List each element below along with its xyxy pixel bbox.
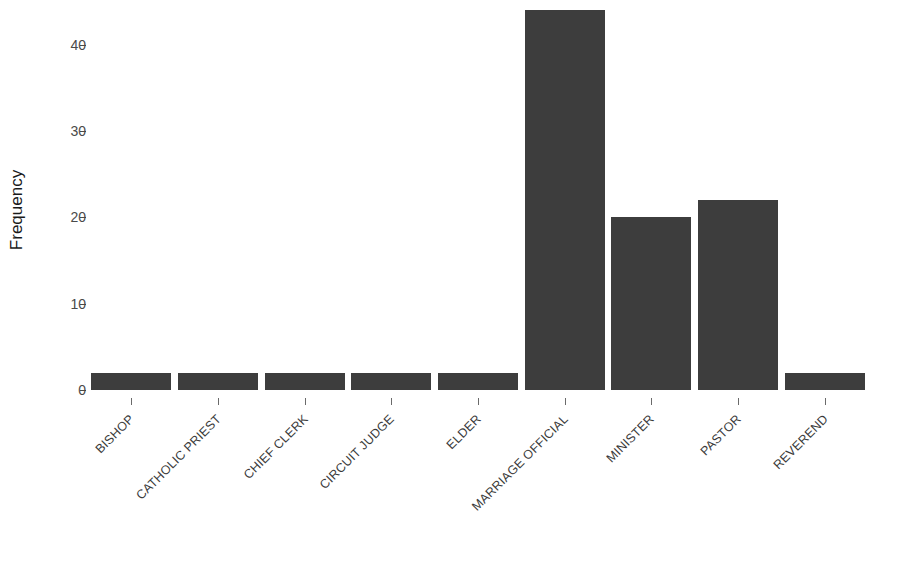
bar[interactable] [265, 373, 345, 390]
x-axis-tick-mark [131, 398, 132, 405]
x-axis-tick-mark [305, 398, 306, 405]
y-axis-tick-label: 30 [34, 123, 86, 139]
y-axis-tick-label: 10 [34, 296, 86, 312]
x-axis-tick-mark [478, 398, 479, 405]
x-axis-tick-label-text: ELDER [444, 412, 484, 452]
x-axis-tick-label-text: CHIEF CLERK [241, 412, 311, 482]
x-axis-tick-mark [651, 398, 652, 405]
y-axis-title: Frequency [0, 0, 34, 420]
clipped-title-text [0, 0, 899, 5]
x-axis-tick-label: BISHOP [127, 412, 137, 422]
x-axis-tick-label: PASTOR [734, 412, 744, 422]
bar[interactable] [611, 217, 691, 390]
x-axis-tick-mark [565, 398, 566, 405]
x-axis-tick-label-text: CIRCUIT JUDGE [317, 412, 397, 492]
x-axis-tick-label-text: MARRIAGE OFFICIAL [469, 412, 571, 514]
y-axis-tick-mark [80, 304, 86, 305]
y-axis-tick-mark [80, 131, 86, 132]
x-axis-tick-label-text: MINISTER [604, 412, 657, 465]
bar[interactable] [698, 200, 778, 390]
x-axis-tick-label-text: REVEREND [770, 412, 830, 472]
y-axis-tick-mark [80, 217, 86, 218]
bar[interactable] [178, 373, 258, 390]
y-axis-tick-mark [80, 45, 86, 46]
y-axis-tick-label: 20 [34, 209, 86, 225]
x-axis-tick-mark [738, 398, 739, 405]
plot-area [88, 10, 868, 390]
bar[interactable] [351, 373, 431, 390]
x-axis-tick-label: CATHOLIC PRIEST [214, 412, 224, 422]
bar[interactable] [525, 10, 605, 390]
y-axis-tick-label: 40 [34, 37, 86, 53]
x-axis-tick-label: MARRIAGE OFFICIAL [561, 412, 571, 422]
bar[interactable] [785, 373, 865, 390]
x-axis-tick-label: CHIEF CLERK [301, 412, 311, 422]
x-axis-tick-label: REVEREND [821, 412, 831, 422]
x-axis-tick-label-text: CATHOLIC PRIEST [133, 412, 223, 502]
x-axis-tick-label: ELDER [474, 412, 484, 422]
y-axis-title-label: Frequency [7, 170, 27, 250]
x-axis-tick-mark [825, 398, 826, 405]
x-axis-tick-mark [218, 398, 219, 405]
bar[interactable] [438, 373, 518, 390]
y-axis-tick-label: 0 [34, 382, 86, 398]
x-axis-tick-label-text: BISHOP [93, 412, 137, 456]
y-axis-tick-mark [80, 390, 86, 391]
x-axis-tick-label: CIRCUIT JUDGE [387, 412, 397, 422]
x-axis-tick-label-text: PASTOR [698, 412, 744, 458]
bar-chart-figure: Frequency 010203040 BISHOPCATHOLIC PRIES… [0, 0, 899, 570]
bar[interactable] [91, 373, 171, 390]
x-axis-tick-mark [391, 398, 392, 405]
x-axis-tick-label: MINISTER [647, 412, 657, 422]
